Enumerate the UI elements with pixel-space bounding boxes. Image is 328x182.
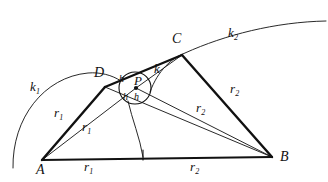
segment-DB — [105, 87, 272, 157]
segment-label-r1-base-sub: 1 — [89, 167, 93, 176]
arc-label-k1-sub: 1 — [36, 87, 40, 96]
arc-label-k1-base: k — [30, 79, 36, 94]
circle-label-k: k — [154, 62, 160, 75]
diagram-canvas: A B C D P k k1 k2 r1 r1 r1 r2 r2 r2 h h … — [0, 0, 328, 182]
segment-label-r2-PB: r2 — [196, 101, 205, 117]
segment-AD — [42, 87, 105, 160]
height-label-h-lower-left: h — [123, 92, 128, 102]
arc-label-k1: k1 — [30, 80, 40, 96]
segment-PB — [136, 88, 272, 157]
segment-label-r2-CB-sub: 2 — [235, 89, 239, 98]
geometry-figure — [0, 0, 328, 182]
segment-label-r2-base: r2 — [190, 160, 199, 176]
height-label-h-upper-left: h — [119, 74, 124, 84]
point-label-C: C — [172, 32, 181, 46]
point-label-A: A — [36, 163, 45, 177]
arc-label-k2-sub: 2 — [234, 33, 238, 42]
height-label-h-lower-right: h — [134, 92, 139, 102]
arc-label-k2: k2 — [228, 26, 238, 42]
point-label-B: B — [280, 150, 289, 164]
arc-label-k2-base: k — [228, 25, 234, 40]
arc-k1-inner — [128, 101, 143, 157]
segment-label-r1-AD: r1 — [54, 106, 63, 122]
segment-label-r2-PB-sub: 2 — [201, 108, 205, 117]
segment-label-r1-AD-sub: 1 — [59, 113, 63, 122]
segment-label-r2-base-sub: 2 — [195, 167, 199, 176]
segment-AB — [42, 157, 272, 160]
point-label-D: D — [94, 66, 104, 80]
segment-label-r1-base: r1 — [84, 160, 93, 176]
point-label-P: P — [134, 74, 142, 87]
segment-label-r1-AP: r1 — [82, 120, 91, 136]
segment-label-r2-CB: r2 — [230, 82, 239, 98]
segment-label-r1-AP-sub: 1 — [87, 127, 91, 136]
